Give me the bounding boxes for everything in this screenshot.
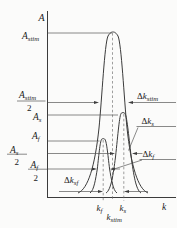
a-f-half-denominator: 2 [34, 173, 39, 183]
x-axis-label: k [162, 202, 167, 212]
figure-page: A k Astim Astim 2 As Af As 2 Af 2 Δkstim… [0, 0, 177, 228]
k-f-tick-label: kf [97, 203, 104, 214]
dk-stim-right-arrow-icon [128, 101, 133, 104]
a-s-half-numerator: As [9, 145, 19, 156]
k-stim-tick-label: kstim [107, 212, 122, 223]
y-axis-label: A [38, 12, 46, 23]
dk-stim-left-arrow-icon [94, 101, 99, 104]
a-f-label: Af [31, 131, 41, 142]
dk-f-leader-line [111, 160, 142, 170]
a-stim-half-numerator: Astim [18, 90, 36, 101]
a-f-half-numerator: Af [30, 160, 40, 171]
dk-f-left-arrow-icon [92, 167, 97, 170]
a-stim-label: Astim [21, 31, 39, 42]
dk-s-right-arrow-icon [132, 152, 137, 155]
delta-k-stim-label: Δkstim [137, 91, 158, 102]
a-stim-half-denominator: 2 [27, 103, 32, 113]
dk-sf-left-arrow-icon [98, 190, 103, 193]
resonance-curves-figure: A k Astim Astim 2 As Af As 2 Af 2 Δkstim… [0, 0, 177, 228]
delta-k-sf-label: Δksf [64, 175, 79, 186]
a-s-half-denominator: 2 [15, 157, 20, 167]
k-s-tick-label: ks [120, 203, 127, 214]
delta-k-f-label: Δkf [143, 149, 156, 160]
delta-k-s-label: Δks [142, 116, 155, 127]
dk-s-leader-line [129, 128, 139, 151]
dk-sf-right-arrow-icon [124, 190, 129, 193]
a-s-label: As [32, 112, 42, 123]
